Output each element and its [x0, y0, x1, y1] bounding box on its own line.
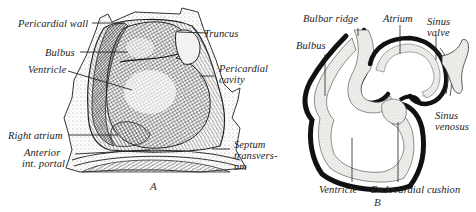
label-truncus: Truncus — [204, 28, 239, 39]
figure-b-heart-section: Bulbar ridge Atrium Sinus valve Bulbus S… — [290, 0, 476, 212]
label-sinus-venosus-line1: Sinus — [435, 110, 458, 121]
label-right-atrium: Right atrium — [8, 130, 63, 141]
figure-a-embryonic-heart-ventral-view: Pericardial wall Bulbus Ventricle Right … — [0, 0, 290, 212]
label-pericardial-wall: Pericardial wall — [18, 18, 88, 29]
caption-b: B — [374, 196, 381, 208]
label-pericardial-cavity-line2: cavity — [219, 74, 245, 85]
label-pericardial-cavity-line1: Pericardial — [219, 63, 268, 74]
label-bulbar-ridge: Bulbar ridge — [303, 13, 358, 24]
label-endocardial-cushion: Endocardial cushion — [371, 184, 460, 195]
label-septum-line1: Septum — [234, 139, 266, 150]
label-atrium: Atrium — [383, 13, 413, 24]
label-sinus-valve-line2: valve — [427, 27, 450, 38]
label-sinus-valve-line1: Sinus — [427, 16, 450, 27]
label-ventricle-a: Ventricle — [28, 64, 66, 75]
label-ventricle-b: Ventricle — [319, 184, 357, 195]
heart-drawing-a — [0, 0, 290, 212]
caption-a: A — [150, 180, 157, 192]
label-septum-line2: transvers- — [234, 150, 278, 161]
label-bulbus-b: Bulbus — [296, 40, 326, 51]
label-sinus-venosus-line2: venosus — [435, 121, 469, 132]
label-bulbus-a: Bulbus — [45, 47, 75, 58]
label-anterior-portal-line2: int. portal — [22, 158, 65, 169]
label-septum-line3: um — [234, 161, 247, 172]
label-anterior-portal-line1: Anterior — [24, 147, 60, 158]
endocardial-cushion-shape — [382, 99, 407, 124]
